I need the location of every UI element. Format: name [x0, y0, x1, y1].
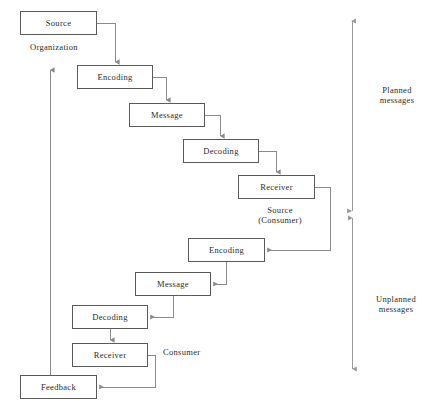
node-message-bottom-label: Message	[157, 279, 189, 289]
node-decoding-top-label: Decoding	[203, 146, 238, 156]
node-feedback-label: Feedback	[41, 382, 76, 392]
node-encoding-bottom[interactable]: Encoding	[188, 238, 265, 262]
connector-encoding-to-message-lower	[214, 262, 226, 284]
connector-message-to-decoding-lower	[151, 296, 173, 317]
node-encoding-top[interactable]: Encoding	[77, 65, 153, 89]
node-encoding-bottom-label: Encoding	[209, 245, 244, 255]
node-message-top-label: Message	[151, 110, 183, 120]
node-receiver-bottom[interactable]: Receiver	[72, 343, 148, 367]
node-decoding-bottom[interactable]: Decoding	[72, 305, 148, 329]
connector-source-to-encoding	[97, 23, 115, 62]
annotation-consumer: Consumer	[163, 347, 200, 357]
node-message-bottom[interactable]: Message	[135, 272, 211, 296]
node-receiver-bottom-label: Receiver	[94, 350, 127, 360]
annotation-organization: Organization	[30, 42, 78, 52]
node-receiver-top-label: Receiver	[260, 182, 293, 192]
annotation-source-consumer: Source(Consumer)	[240, 205, 320, 225]
node-feedback[interactable]: Feedback	[20, 375, 97, 399]
annotation-unplanned-messages: Unplannedmessages	[364, 294, 428, 314]
connector-decoding-to-receiver	[259, 151, 276, 172]
diagram-connectors-layer	[0, 0, 428, 420]
node-decoding-top[interactable]: Decoding	[183, 139, 259, 163]
connector-encoding-to-message	[153, 77, 166, 100]
communication-process-diagram: Source Encoding Message Decoding Receive…	[0, 0, 428, 420]
node-decoding-bottom-label: Decoding	[92, 312, 127, 322]
annotation-planned-messages: Plannedmessages	[366, 85, 428, 105]
node-receiver-top[interactable]: Receiver	[238, 175, 315, 199]
node-source-label: Source	[46, 18, 71, 28]
connector-message-to-decoding	[205, 115, 220, 136]
node-encoding-top-label: Encoding	[98, 72, 133, 82]
node-message-top[interactable]: Message	[129, 103, 205, 127]
node-source[interactable]: Source	[20, 11, 97, 35]
